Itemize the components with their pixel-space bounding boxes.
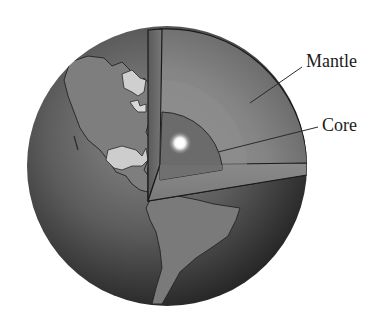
core-label: Core — [322, 116, 357, 134]
earth-globe-figure — [0, 0, 385, 319]
mantle-label: Mantle — [306, 52, 357, 70]
